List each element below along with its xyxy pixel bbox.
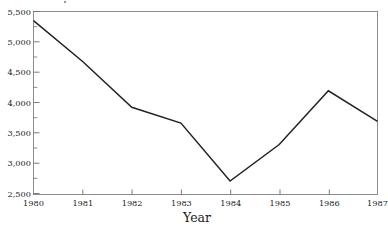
y-tick-label: 3,000 xyxy=(8,158,31,168)
x-tick-label: 1986 xyxy=(319,198,340,208)
y-tick-label: 4,500 xyxy=(8,67,31,77)
x-tick-label: 1987 xyxy=(367,198,388,208)
y-tick-label: 3,500 xyxy=(8,128,31,138)
chart-canvas: 5,500 5,000 4,500 4,000 3,500 3,000 2,50… xyxy=(0,0,388,227)
x-tick-label: 1983 xyxy=(171,198,192,208)
y-tick-label: 5,500 xyxy=(8,7,31,17)
x-tick-label: 1984 xyxy=(220,198,241,208)
x-tick-label: 1982 xyxy=(122,198,143,208)
scan-artifact xyxy=(64,1,66,3)
y-tick-label: 5,000 xyxy=(8,37,31,47)
x-tick-label: 1980 xyxy=(23,198,44,208)
chart-background xyxy=(0,0,388,227)
x-tick-label: 1985 xyxy=(270,198,291,208)
x-axis-title: Year xyxy=(182,210,211,225)
line-chart: 5,500 5,000 4,500 4,000 3,500 3,000 2,50… xyxy=(0,0,388,227)
y-tick-label: 4,000 xyxy=(8,98,31,108)
x-tick-label: 1981 xyxy=(72,198,93,208)
